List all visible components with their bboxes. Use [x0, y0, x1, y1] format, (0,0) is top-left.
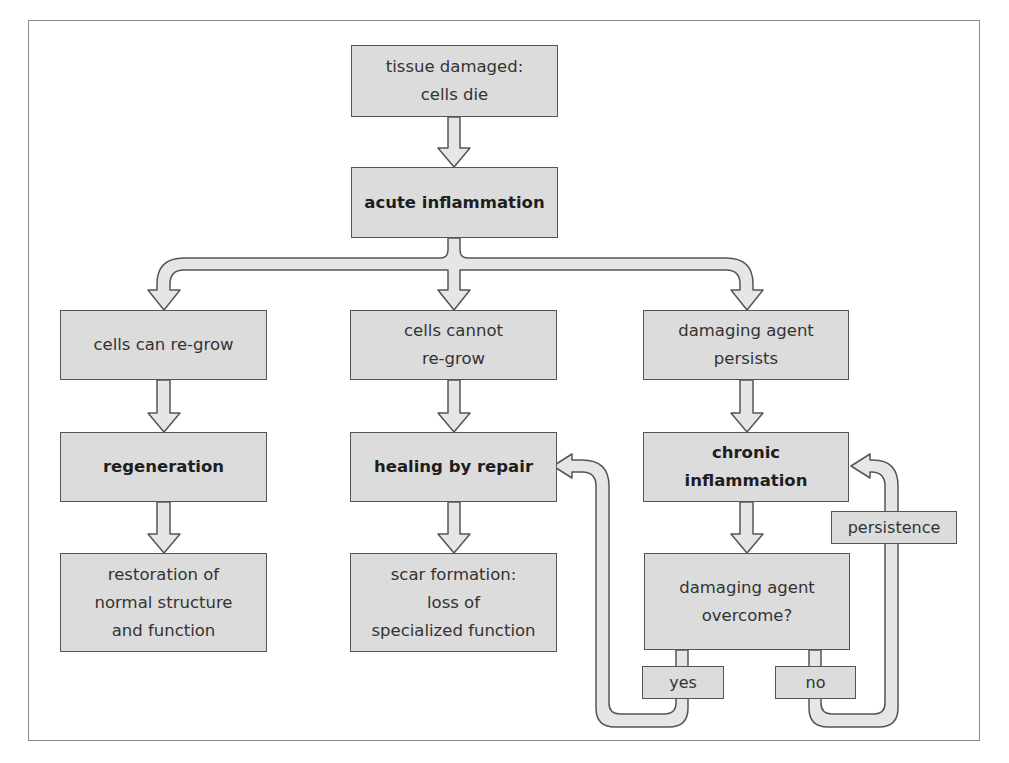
node-scar-formation: scar formation: loss of specialized func…: [350, 553, 557, 652]
label-no: no: [775, 666, 856, 699]
node-cells-cannot-regrow: cells cannot re-grow: [350, 310, 557, 380]
arrow-down-icon: [438, 380, 470, 432]
branch-arrow-icon: [148, 238, 763, 310]
arrow-down-icon: [731, 502, 763, 553]
node-regeneration: regeneration: [60, 432, 267, 502]
arrow-down-icon: [148, 380, 180, 432]
arrow-down-icon: [148, 502, 180, 553]
node-agent-overcome: damaging agent overcome?: [644, 553, 850, 650]
node-cells-can-regrow: cells can re-grow: [60, 310, 267, 380]
label-persistence: persistence: [831, 511, 957, 544]
node-acute-inflammation: acute inflammation: [351, 167, 558, 238]
node-healing-by-repair: healing by repair: [350, 432, 557, 502]
label-yes: yes: [642, 666, 724, 699]
node-tissue-damaged: tissue damaged: cells die: [351, 45, 558, 117]
node-agent-persists: damaging agent persists: [643, 310, 849, 380]
node-chronic-inflammation: chronic inflammation: [643, 432, 849, 502]
arrow-down-icon: [438, 117, 470, 167]
arrow-down-icon: [438, 502, 470, 553]
arrow-down-icon: [731, 380, 763, 432]
node-restoration: restoration of normal structure and func…: [60, 553, 267, 652]
